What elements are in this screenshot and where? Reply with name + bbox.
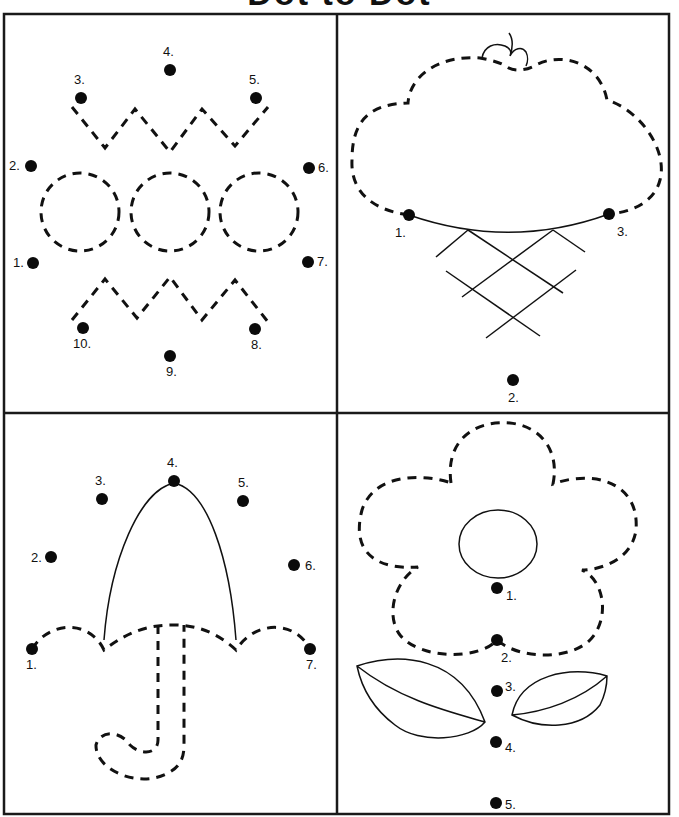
crown-top-zigzag [72, 107, 268, 152]
panel-ice-cream [352, 33, 661, 338]
dot-label: 6. [305, 558, 316, 573]
dot-umbrella-7: 7. [304, 643, 317, 672]
dot-marker [164, 350, 176, 362]
dot-label: 10. [73, 336, 91, 351]
dot-label: 5. [238, 475, 249, 490]
panel-crown [41, 107, 298, 322]
dots-layer: 1.2.3.4.5.6.7.8.9.10.1.2.3.1.2.3.4.5.6.7… [9, 44, 628, 812]
dot-flower-3: 3. [491, 679, 516, 697]
dot-umbrella-4: 4. [167, 455, 180, 487]
dot-flower-5: 5. [490, 797, 516, 812]
dot-label: 8. [251, 337, 262, 352]
dot-umbrella-1: 1. [26, 643, 38, 672]
dot-label: 3. [505, 679, 516, 694]
umbrella-handle [96, 625, 184, 779]
dot-marker [603, 208, 615, 220]
dot-label: 2. [9, 158, 20, 173]
dot-umbrella-2: 2. [31, 550, 57, 565]
dot-label: 4. [167, 455, 178, 470]
dot-crown-8: 8. [249, 323, 262, 352]
dot-label: 9. [166, 364, 177, 379]
dot-marker [250, 92, 262, 104]
panel-umbrella [32, 483, 310, 779]
crown-bottom-zigzag [72, 277, 268, 322]
dot-label: 3. [617, 224, 628, 239]
dot-label: 4. [163, 44, 174, 59]
flower-center [459, 510, 537, 578]
crown-jewel-left [41, 173, 119, 251]
dot-ice-cream-1: 1. [395, 209, 415, 240]
dot-marker [77, 322, 89, 334]
dot-marker [45, 551, 57, 563]
dot-marker [302, 256, 314, 268]
dot-umbrella-3: 3. [95, 473, 108, 505]
dot-label: 1. [13, 255, 24, 270]
cone-crosshatch [436, 230, 585, 338]
crown-jewel-right [220, 173, 298, 251]
dot-label: 3. [95, 473, 106, 488]
dot-label: 7. [317, 254, 328, 269]
dot-label: 5. [249, 72, 260, 87]
dot-crown-9: 9. [164, 350, 177, 379]
ice-cream-scoop-outline [352, 58, 661, 215]
cone-rim [409, 214, 609, 232]
dot-label: 4. [505, 740, 516, 755]
dot-marker [288, 559, 300, 571]
dot-marker [490, 797, 502, 809]
dot-marker [490, 736, 502, 748]
dot-marker [507, 374, 519, 386]
umbrella-scallop-edge [32, 625, 310, 650]
dot-umbrella-6: 6. [288, 558, 316, 573]
dot-label: 2. [31, 550, 42, 565]
dot-label: 1. [506, 588, 517, 603]
dot-label: 2. [508, 390, 519, 405]
dot-marker [168, 475, 180, 487]
dot-crown-5: 5. [249, 72, 262, 104]
dot-ice-cream-2: 2. [507, 374, 519, 405]
dot-crown-7: 7. [302, 254, 328, 269]
dot-marker [96, 493, 108, 505]
dot-label: 6. [318, 160, 329, 175]
dot-marker [403, 209, 415, 221]
dot-label: 5. [505, 797, 516, 812]
dot-marker [304, 643, 316, 655]
dot-marker [491, 634, 503, 646]
dot-flower-2: 2. [491, 634, 512, 665]
flower-petals-outline [359, 423, 636, 655]
dot-marker [164, 64, 176, 76]
dot-umbrella-5: 5. [237, 475, 249, 507]
dot-marker [237, 495, 249, 507]
worksheet-canvas: 1.2.3.4.5.6.7.8.9.10.1.2.3.1.2.3.4.5.6.7… [0, 0, 679, 817]
leaf-right [512, 672, 607, 725]
dot-marker [25, 160, 37, 172]
crown-jewel-middle [131, 173, 209, 251]
dot-label: 2. [501, 650, 512, 665]
dot-marker [303, 162, 315, 174]
dot-flower-4: 4. [490, 736, 516, 755]
dot-marker [249, 323, 261, 335]
dot-label: 1. [395, 225, 406, 240]
dot-flower-1: 1. [491, 582, 517, 603]
dot-marker [27, 257, 39, 269]
dot-marker [26, 643, 38, 655]
umbrella-canopy-outline [104, 483, 236, 640]
dot-marker [75, 92, 87, 104]
dot-crown-4: 4. [163, 44, 176, 76]
dot-crown-10: 10. [73, 322, 91, 351]
dot-crown-1: 1. [13, 255, 39, 270]
dot-label: 3. [74, 72, 85, 87]
dot-marker [491, 582, 503, 594]
dot-crown-2: 2. [9, 158, 37, 173]
dot-marker [491, 685, 503, 697]
dot-crown-3: 3. [74, 72, 87, 104]
panel-grid [4, 14, 669, 814]
dot-crown-6: 6. [303, 160, 329, 175]
cherry-drawing [482, 33, 528, 66]
dot-label: 1. [26, 657, 37, 672]
leaf-left [357, 659, 485, 738]
dot-label: 7. [306, 657, 317, 672]
